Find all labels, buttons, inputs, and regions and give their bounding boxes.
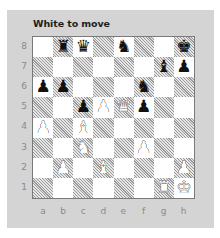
- file-label: g: [154, 206, 174, 216]
- white-pawn-icon[interactable]: ♟: [35, 119, 50, 136]
- file-label: c: [73, 206, 93, 216]
- square-g1[interactable]: ♜: [154, 178, 174, 198]
- square-g6[interactable]: [154, 77, 174, 97]
- black-pawn-icon[interactable]: ♟: [56, 78, 71, 95]
- white-pawn-icon[interactable]: ♟: [136, 139, 151, 156]
- white-bishop-icon[interactable]: ♝: [96, 159, 111, 176]
- square-b6[interactable]: ♟: [53, 77, 73, 97]
- square-b4[interactable]: [53, 118, 73, 138]
- white-bishop-icon[interactable]: ♝: [76, 119, 91, 136]
- file-label: e: [113, 206, 133, 216]
- square-h2[interactable]: ♟: [174, 158, 194, 178]
- black-queen-icon[interactable]: ♛: [76, 38, 91, 55]
- square-e5[interactable]: ♛: [114, 97, 134, 117]
- white-queen-icon[interactable]: ♛: [116, 98, 131, 115]
- chess-board[interactable]: ♜♛♞♚♝♟♟♟♞♟♟♛♟♟♝♞♟♟♝♟♜♚: [32, 36, 195, 199]
- square-h7[interactable]: ♟: [174, 57, 194, 77]
- black-king-icon[interactable]: ♚: [176, 38, 191, 55]
- square-d3[interactable]: [93, 138, 113, 158]
- side-to-move-label: White to move: [33, 18, 110, 29]
- black-pawn-icon[interactable]: ♟: [136, 98, 151, 115]
- square-g3[interactable]: [154, 138, 174, 158]
- square-d2[interactable]: ♝: [93, 158, 113, 178]
- square-h5[interactable]: [174, 97, 194, 117]
- square-d7[interactable]: [93, 57, 113, 77]
- square-a7[interactable]: [33, 57, 53, 77]
- square-h8[interactable]: ♚: [174, 37, 194, 57]
- square-f2[interactable]: [134, 158, 154, 178]
- square-g4[interactable]: [154, 118, 174, 138]
- square-f8[interactable]: [134, 37, 154, 57]
- square-h4[interactable]: [174, 118, 194, 138]
- rank-label: 1: [19, 182, 29, 192]
- square-a4[interactable]: ♟: [33, 118, 53, 138]
- square-e2[interactable]: [114, 158, 134, 178]
- square-a8[interactable]: [33, 37, 53, 57]
- square-f6[interactable]: ♞: [134, 77, 154, 97]
- rank-label: 8: [19, 41, 29, 51]
- square-c4[interactable]: ♝: [73, 118, 93, 138]
- square-d5[interactable]: ♟: [93, 97, 113, 117]
- square-f4[interactable]: [134, 118, 154, 138]
- square-h6[interactable]: [174, 77, 194, 97]
- white-pawn-icon[interactable]: ♟: [56, 159, 71, 176]
- square-b3[interactable]: [53, 138, 73, 158]
- white-pawn-icon[interactable]: ♟: [96, 98, 111, 115]
- square-h3[interactable]: [174, 138, 194, 158]
- square-b8[interactable]: ♜: [53, 37, 73, 57]
- square-d1[interactable]: [93, 178, 113, 198]
- square-a6[interactable]: ♟: [33, 77, 53, 97]
- square-d6[interactable]: [93, 77, 113, 97]
- white-king-icon[interactable]: ♚: [176, 179, 191, 196]
- file-label: d: [93, 206, 113, 216]
- square-c1[interactable]: [73, 178, 93, 198]
- square-d4[interactable]: [93, 118, 113, 138]
- square-c3[interactable]: ♞: [73, 138, 93, 158]
- square-e4[interactable]: [114, 118, 134, 138]
- square-g5[interactable]: [154, 97, 174, 117]
- white-pawn-icon[interactable]: ♟: [176, 159, 191, 176]
- square-c6[interactable]: [73, 77, 93, 97]
- rank-label: 2: [19, 162, 29, 172]
- rank-label: 4: [19, 121, 29, 131]
- square-a1[interactable]: [33, 178, 53, 198]
- square-b2[interactable]: ♟: [53, 158, 73, 178]
- square-d8[interactable]: [93, 37, 113, 57]
- square-g2[interactable]: [154, 158, 174, 178]
- square-b1[interactable]: [53, 178, 73, 198]
- square-b5[interactable]: [53, 97, 73, 117]
- square-e6[interactable]: [114, 77, 134, 97]
- square-e8[interactable]: ♞: [114, 37, 134, 57]
- square-f1[interactable]: [134, 178, 154, 198]
- square-e3[interactable]: [114, 138, 134, 158]
- square-c7[interactable]: [73, 57, 93, 77]
- rank-label: 3: [19, 142, 29, 152]
- white-rook-icon[interactable]: ♜: [156, 179, 171, 196]
- square-c2[interactable]: [73, 158, 93, 178]
- square-g7[interactable]: ♝: [154, 57, 174, 77]
- square-c5[interactable]: ♟: [73, 97, 93, 117]
- black-pawn-icon[interactable]: ♟: [76, 98, 91, 115]
- black-pawn-icon[interactable]: ♟: [176, 58, 191, 75]
- black-knight-icon[interactable]: ♞: [136, 78, 151, 95]
- black-pawn-icon[interactable]: ♟: [35, 78, 50, 95]
- square-e7[interactable]: [114, 57, 134, 77]
- rank-label: 7: [19, 61, 29, 71]
- square-a5[interactable]: [33, 97, 53, 117]
- square-c8[interactable]: ♛: [73, 37, 93, 57]
- file-label: b: [53, 206, 73, 216]
- black-knight-icon[interactable]: ♞: [116, 38, 131, 55]
- black-rook-icon[interactable]: ♜: [56, 38, 71, 55]
- square-h1[interactable]: ♚: [174, 178, 194, 198]
- square-f3[interactable]: ♟: [134, 138, 154, 158]
- square-e1[interactable]: [114, 178, 134, 198]
- square-g8[interactable]: [154, 37, 174, 57]
- square-b7[interactable]: [53, 57, 73, 77]
- square-a2[interactable]: [33, 158, 53, 178]
- square-f7[interactable]: [134, 57, 154, 77]
- square-f5[interactable]: ♟: [134, 97, 154, 117]
- black-bishop-icon[interactable]: ♝: [156, 58, 171, 75]
- white-knight-icon[interactable]: ♞: [76, 139, 91, 156]
- rank-label: 5: [19, 101, 29, 111]
- square-a3[interactable]: [33, 138, 53, 158]
